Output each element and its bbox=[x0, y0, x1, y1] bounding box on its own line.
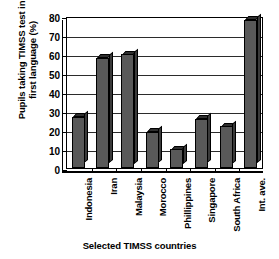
bar bbox=[195, 119, 208, 168]
y-tick-label: 80 bbox=[49, 13, 60, 24]
x-tick-mark bbox=[239, 168, 240, 173]
bar bbox=[146, 132, 159, 168]
bar bbox=[220, 126, 233, 168]
y-tick-label: 20 bbox=[49, 127, 60, 138]
x-category-label: Iran bbox=[108, 178, 120, 248]
y-tick-mark bbox=[62, 94, 67, 95]
bar bbox=[244, 20, 257, 168]
x-category-label: Int. ave. bbox=[256, 178, 268, 248]
x-category-label: Malaysia bbox=[133, 178, 145, 248]
y-tick-label: 30 bbox=[49, 108, 60, 119]
x-category-label: Singapore bbox=[206, 178, 218, 248]
bar bbox=[121, 54, 134, 168]
y-tick-label: 0 bbox=[54, 165, 60, 176]
y-axis-title-text: Pupils taking TIMSS test in first langua… bbox=[16, 1, 39, 120]
x-category-label: South Africa bbox=[231, 178, 243, 248]
x-tick-mark bbox=[166, 168, 167, 173]
y-tick-label: 70 bbox=[49, 32, 60, 43]
y-tick-mark bbox=[62, 75, 67, 76]
y-tick-mark bbox=[62, 151, 67, 152]
x-category-label: Phillippines bbox=[182, 178, 194, 248]
x-tick-mark bbox=[215, 168, 216, 173]
y-tick-mark bbox=[62, 56, 67, 57]
y-tick-label: 10 bbox=[49, 146, 60, 157]
bar-chart-figure: Pupils taking TIMSS test in first langua… bbox=[0, 0, 279, 259]
y-tick-mark bbox=[62, 113, 67, 114]
y-axis-title: Pupils taking TIMSS test in first langua… bbox=[10, 0, 44, 134]
y-tick-label: 40 bbox=[49, 89, 60, 100]
y-tick-mark bbox=[62, 170, 67, 171]
bar bbox=[96, 58, 109, 168]
y-tick-mark bbox=[62, 37, 67, 38]
y-tick-mark bbox=[62, 18, 67, 19]
x-tick-mark bbox=[190, 168, 191, 173]
y-tick-mark bbox=[62, 132, 67, 133]
x-axis-title: Selected TIMSS countries bbox=[0, 240, 279, 251]
plot-area: 01020304050607080 bbox=[66, 17, 263, 169]
x-category-label: Indonesia bbox=[83, 178, 95, 248]
x-tick-mark bbox=[92, 168, 93, 173]
x-category-label: Morocco bbox=[157, 178, 169, 248]
gridline bbox=[67, 37, 262, 38]
x-tick-mark bbox=[141, 168, 142, 173]
x-tick-mark bbox=[116, 168, 117, 173]
y-tick-label: 60 bbox=[49, 51, 60, 62]
y-tick-label: 50 bbox=[49, 70, 60, 81]
bar bbox=[72, 117, 85, 168]
bar bbox=[170, 149, 183, 168]
